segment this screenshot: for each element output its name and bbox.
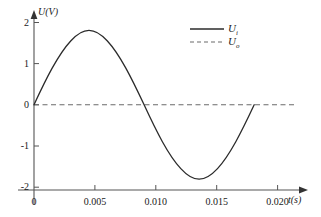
- x-tick-label-0p010: 0.010: [145, 197, 168, 207]
- y-tick-label-m2: -2: [8, 182, 29, 192]
- plot-area: [0, 0, 321, 217]
- x-tick-label-0p020: 0.020: [266, 197, 289, 207]
- y-tick-label-0: 0: [11, 100, 29, 110]
- x-tick-label-0: 0: [32, 197, 37, 207]
- y-axis-title: U(V): [38, 7, 58, 17]
- chart-figure: U(V) t(s) 2 1 0 -1 -2 0 0.005 0.010 0.01…: [0, 0, 321, 217]
- x-axis-title: t(s): [288, 195, 301, 205]
- x-axis: [18, 187, 308, 194]
- x-tick-label-0p015: 0.015: [205, 197, 228, 207]
- x-axis-ticks: [95, 185, 278, 190]
- legend-swatches: [190, 29, 224, 42]
- y-tick-label-m1: -1: [8, 141, 29, 151]
- x-tick-label-0p005: 0.005: [84, 197, 107, 207]
- y-tick-label-2: 2: [11, 18, 29, 28]
- y-axis: [31, 10, 38, 205]
- y-tick-label-1: 1: [11, 59, 29, 69]
- legend-label-uo: Uo: [228, 36, 239, 50]
